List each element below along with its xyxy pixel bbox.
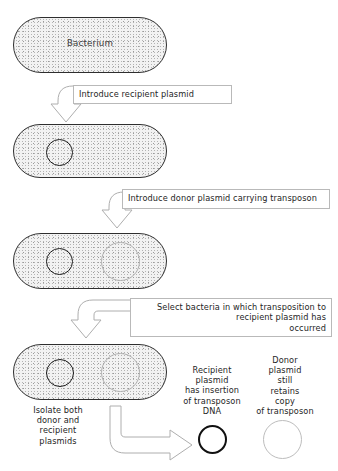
result-recipient-line3: has insertion [181,385,243,395]
bacterium-label: Bacterium [14,38,166,48]
result-recipient-line1: Recipient [181,365,243,375]
label-select-bacteria-line2: recipient plasmid has [136,312,326,322]
result-donor-line6: of transposon [249,406,321,416]
label-introduce-recipient-plasmid: Introduce recipient plasmid [73,85,232,104]
recipient-plasmid-ring-cell3 [46,248,73,275]
label-select-bacteria-line1: Select bacteria in which transposition t… [136,302,326,312]
label-select-bacteria-line3: occurred [136,323,326,333]
result-recipient-plasmid-ring [198,425,227,454]
result-donor-line2: plasmid [249,365,321,375]
donor-plasmid-ring-cell3 [101,242,140,281]
arrow-select-bacteria [69,296,133,342]
result-recipient-line2: plasmid [181,375,243,385]
label-isolate-plasmids-line4: plasmids [18,436,98,446]
donor-plasmid-ring-cell4 [101,353,140,392]
label-introduce-donor-plasmid: Introduce donor plasmid carrying transpo… [122,189,330,209]
result-recipient-line5: DNA [181,406,243,416]
bacterium-cell-1: Bacterium [13,17,167,73]
recipient-plasmid-ring-cell4 [46,359,74,387]
label-isolate-plasmids-line2: donor and [18,415,98,425]
bacterium-cell-2 [13,124,167,178]
result-recipient-line4: of transposon [181,396,243,406]
result-donor-line5: copy [249,396,321,406]
bacterium-cell-3 [13,233,167,289]
transposition-diagram: Bacterium Introduce recipient plasmid In… [0,0,338,471]
bacterium-cell-4 [13,344,167,400]
label-isolate-plasmids: Isolate both donor and recipient plasmid… [18,405,98,446]
result-donor-line3: still [249,375,321,385]
result-donor-line1: Donor [249,355,321,365]
label-isolate-plasmids-line3: recipient [18,425,98,435]
result-donor-plasmid-caption: Donor plasmid still retains copy of tran… [249,355,321,416]
result-donor-plasmid-ring [263,420,302,459]
result-recipient-plasmid-caption: Recipient plasmid has insertion of trans… [181,365,243,416]
recipient-plasmid-ring-cell2 [46,139,73,166]
label-isolate-plasmids-line1: Isolate both [18,405,98,415]
result-donor-line4: retains [249,386,321,396]
label-select-bacteria: Select bacteria in which transposition t… [130,298,332,337]
